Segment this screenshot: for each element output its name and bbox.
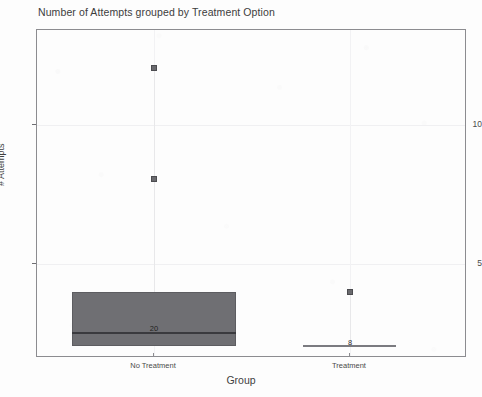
- gridline-y-10: [37, 125, 465, 126]
- x-tick-mark-treatment: [349, 353, 350, 357]
- plot-area: 20 8: [36, 29, 466, 357]
- chart-figure: Number of Attempts grouped by Treatment …: [0, 0, 482, 397]
- x-axis-label: Group: [0, 374, 482, 386]
- outlier-point-no-treatment-2: [151, 176, 157, 182]
- gridline-y-5: [37, 264, 465, 265]
- whisker-no-treatment: [154, 70, 155, 320]
- outlier-point-treatment-1: [347, 289, 353, 295]
- median-value-treatment: 8: [348, 338, 352, 347]
- x-tick-mark-no-treatment: [153, 353, 154, 357]
- y-axis-label: # Attempts: [0, 143, 6, 186]
- median-value-no-treatment: 20: [150, 324, 158, 333]
- chart-title: Number of Attempts grouped by Treatment …: [38, 6, 275, 18]
- x-tick-label-no-treatment: No Treatment: [130, 361, 175, 370]
- x-tick-label-treatment: Treatment: [332, 361, 366, 370]
- box-no-treatment: [72, 292, 236, 346]
- outlier-point-no-treatment-1: [151, 65, 157, 71]
